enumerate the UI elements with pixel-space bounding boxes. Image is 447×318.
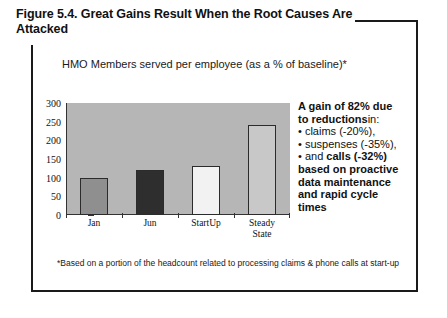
callout-text: A gain of 82% due to reductionsin: • cla… — [298, 100, 414, 213]
bar-jan — [80, 178, 108, 215]
callout-line-9-bold: times — [298, 201, 327, 213]
callout-line-1-bold: A gain of 82% due — [298, 100, 392, 112]
x-axis-label-startup: StartUp — [178, 218, 234, 240]
callout-line-8: and rapid cycle — [298, 188, 414, 201]
callout-line-2: to reductionsin: — [298, 113, 414, 126]
bar-steady-state — [248, 125, 276, 215]
callout-line-7-bold: data maintenance — [298, 176, 391, 188]
bar-slot-jun — [122, 103, 178, 215]
bar-slot-steady-state — [234, 103, 290, 215]
callout-line-3: • claims (-20%), — [298, 125, 414, 138]
y-axis-label-300: 300 — [46, 98, 61, 109]
y-axis-label-100: 100 — [46, 172, 61, 183]
callout-line-6: based on proactive — [298, 163, 414, 176]
callout-line-8-bold: and rapid cycle — [298, 188, 378, 200]
y-axis-label-50: 50 — [51, 191, 61, 202]
bar-slot-startup — [178, 103, 234, 215]
figure-footnote: *Based on a portion of the headcount rel… — [57, 258, 399, 268]
callout-line-9: times — [298, 201, 414, 214]
x-axis-label-steady-state: Steady State — [234, 218, 290, 240]
y-axis-label-150: 150 — [46, 154, 61, 165]
bar-jun — [136, 170, 164, 215]
bar-startup — [192, 166, 220, 215]
x-axis-label-steady-line2: State — [234, 229, 290, 240]
bar-slot-jan — [66, 103, 122, 215]
callout-line-2-rest: in: — [368, 113, 380, 125]
callout-line-6-bold: based on proactive — [298, 163, 398, 175]
callout-line-1: A gain of 82% due — [298, 100, 414, 113]
callout-line-2-bold: to reductions — [298, 113, 368, 125]
callout-line-7: data maintenance — [298, 176, 414, 189]
figure-container: Figure 5.4. Great Gains Result When the … — [0, 0, 447, 318]
y-axis: 300 250 200 150 100 50 0 — [28, 97, 61, 221]
x-axis-label-jun: Jun — [122, 218, 178, 240]
figure-title: Figure 5.4. Great Gains Result When the … — [16, 7, 366, 37]
x-axis-label-steady-line1: Steady — [234, 218, 290, 229]
y-axis-label-250: 250 — [46, 116, 61, 127]
chart-subtitle: HMO Members served per employee (as a % … — [62, 58, 347, 70]
y-axis-label-0: 0 — [56, 210, 61, 221]
x-axis-label-jan: Jan — [66, 218, 122, 240]
callout-line-4: • suspenses (-35%), — [298, 138, 414, 151]
bar-chart — [66, 103, 290, 215]
callout-line-5: • and calls (-32%) — [298, 150, 414, 163]
frame-border-bottom — [31, 290, 418, 292]
bar-series — [66, 103, 290, 215]
x-axis: Jan Jun StartUp Steady State — [66, 218, 290, 240]
y-axis-tick-0 — [88, 215, 94, 216]
callout-line-5-bold: calls (-32%) — [326, 150, 387, 162]
y-axis-label-200: 200 — [46, 135, 61, 146]
frame-border-right — [416, 20, 418, 292]
callout-line-5-prefix: • and — [298, 150, 326, 162]
